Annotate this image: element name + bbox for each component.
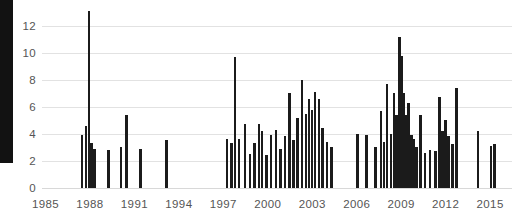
bar <box>429 150 432 188</box>
bar <box>321 128 324 187</box>
bar <box>275 130 278 188</box>
chart-figure: 024681012 198519881991199419972000200320… <box>0 0 529 224</box>
x-tick-label-2006: 2006 <box>337 198 377 211</box>
x-tick-label-1988: 1988 <box>70 198 110 211</box>
bar <box>490 146 493 188</box>
bar <box>139 149 142 188</box>
bar <box>90 143 93 187</box>
bar <box>424 153 427 188</box>
bar <box>386 84 389 188</box>
bar <box>234 57 237 187</box>
x-tick-label-1991: 1991 <box>114 198 154 211</box>
bar <box>296 118 299 188</box>
bar <box>238 139 241 187</box>
bar <box>419 115 422 188</box>
bar <box>356 134 359 188</box>
bar <box>258 124 261 187</box>
bar <box>415 147 418 187</box>
bar <box>279 149 282 188</box>
bar <box>253 143 256 187</box>
bars-group <box>0 0 529 224</box>
bar <box>301 80 304 188</box>
bar <box>270 135 273 187</box>
bar <box>455 88 458 188</box>
bar <box>230 143 233 187</box>
x-tick-label-1994: 1994 <box>159 198 199 211</box>
x-tick-label-1997: 1997 <box>203 198 243 211</box>
bar <box>261 131 264 187</box>
x-tick-label-2015: 2015 <box>470 198 510 211</box>
bar <box>493 144 496 187</box>
bar <box>284 136 287 187</box>
x-tick-label-2003: 2003 <box>292 198 332 211</box>
bar <box>311 110 314 188</box>
bar <box>249 154 252 188</box>
bar <box>365 135 368 187</box>
x-tick-label-2012: 2012 <box>426 198 466 211</box>
bar <box>292 140 295 187</box>
bar <box>318 99 321 188</box>
x-tick-label-2000: 2000 <box>248 198 288 211</box>
bar <box>447 136 450 187</box>
bar <box>226 139 229 187</box>
bar <box>288 93 291 187</box>
bar <box>477 131 480 187</box>
bar <box>326 142 329 188</box>
bar <box>93 149 96 188</box>
bar <box>451 144 454 187</box>
bar <box>107 150 110 188</box>
bar <box>265 155 268 187</box>
bar <box>120 147 123 187</box>
plot-area: 024681012 198519881991199419972000200320… <box>0 0 529 224</box>
bar <box>81 135 84 187</box>
bar <box>314 92 317 187</box>
bar <box>330 147 333 187</box>
bar <box>165 140 168 187</box>
bar <box>244 124 247 187</box>
x-tick-label-2009: 2009 <box>381 198 421 211</box>
x-tick-label-1985: 1985 <box>26 198 66 211</box>
bar <box>125 115 128 188</box>
bar <box>434 151 437 187</box>
bar <box>374 147 377 187</box>
bar <box>85 126 88 188</box>
